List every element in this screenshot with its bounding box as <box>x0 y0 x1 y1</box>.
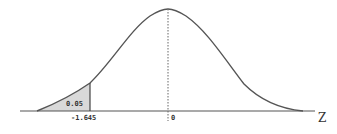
z-axis-label: Z <box>318 111 326 125</box>
critical-value-label: -1.645 <box>71 114 96 122</box>
mean-label: 0 <box>171 114 175 122</box>
area-label: 0.05 <box>66 100 83 108</box>
normal-distribution-chart: 0.05 -1.645 0 Z <box>0 0 337 134</box>
